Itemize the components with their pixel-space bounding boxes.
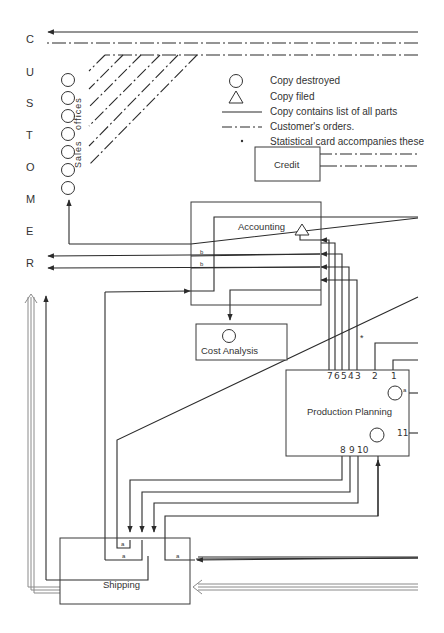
pp-number: 7 (327, 372, 333, 381)
line-mark-a: a (176, 553, 179, 559)
pp-number: 1 (391, 372, 397, 381)
legend-triangle-icon (229, 91, 243, 103)
cost-analysis-destroyed-icon (223, 330, 236, 343)
legend-copy-filed: Copy filed (270, 92, 314, 102)
cost-analysis-label: Cost Analysis (201, 346, 258, 356)
customer-letter: C (26, 33, 34, 45)
customer-letter: E (26, 225, 33, 237)
offices-label: offices (74, 97, 83, 130)
customer-letter: S (26, 97, 33, 109)
legend-copy-destroyed: Copy destroyed (270, 76, 340, 86)
pp-destroyed-icon-1 (388, 386, 402, 400)
accounting-filed-icon (295, 224, 309, 235)
pp-number: 8 (340, 446, 346, 455)
sales-office-circles (62, 74, 75, 195)
pp-number: 5 (341, 372, 347, 381)
pp-number: 9 (349, 446, 355, 455)
pp-number: 3 (355, 372, 361, 381)
line-mark-b: b (200, 249, 203, 255)
sales-label: Sales (74, 140, 83, 168)
pp-number: 11 (397, 429, 408, 438)
flow-diagram (0, 0, 444, 633)
production-planning-label: Production Planning (307, 407, 392, 417)
pp-number: 2 (372, 372, 378, 381)
pp-destroyed-icon-2 (370, 428, 384, 442)
customer-letter: T (26, 129, 33, 141)
customer-letter: R (26, 257, 34, 269)
shipping-label: Shipping (103, 580, 140, 590)
legend-list-of-parts: Copy contains list of all parts (270, 107, 397, 117)
line-mark-a: a (403, 387, 406, 393)
pp-number: 10 (357, 446, 368, 455)
pp-number: 6 (334, 372, 340, 381)
pp-number: 4 (348, 372, 354, 381)
customer-letter: O (26, 161, 35, 173)
line-mark-a: a (122, 553, 125, 559)
accounting-label: Accounting (238, 222, 285, 232)
legend-customer-orders: Customer's orders. (270, 122, 354, 132)
legend-circle-icon (230, 75, 243, 88)
credit-label: Credit (274, 160, 299, 170)
customer-letter: U (26, 66, 34, 78)
customer-letter: M (26, 193, 35, 205)
line-mark-a: a (121, 541, 124, 547)
line-mark-b: b (200, 261, 203, 267)
asterisk-mark: * (360, 334, 364, 343)
sales-diagonals (89, 55, 197, 165)
legend-statistical-card: Statistical card accompanies these (270, 137, 424, 147)
legend-asterisk-icon (241, 140, 243, 142)
